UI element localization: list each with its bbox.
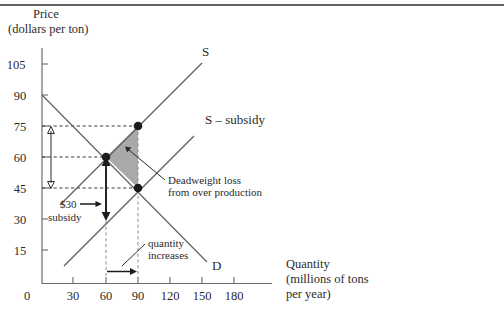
x-axis-title-line2: (millions of tons: [286, 272, 369, 286]
y-axis-title-line1: Price: [33, 7, 59, 21]
deadweight-loss-label-line2: from over production: [168, 186, 263, 198]
x-axis-title-line3: per year): [286, 287, 331, 301]
y-tick-label-105: 105: [7, 58, 26, 72]
origin-label: 0: [24, 289, 30, 303]
x-tick-label-150: 150: [193, 289, 212, 303]
x-tick-label-30: 30: [67, 289, 80, 303]
x-tick-label-180: 180: [225, 289, 244, 303]
y-tick-label-60: 60: [14, 151, 27, 165]
curve-label-S-minus-subsidy: S – subsidy: [205, 112, 265, 127]
subsidy-annotation-line2: subsidy: [48, 211, 82, 223]
y-tick-label-90: 90: [14, 89, 27, 103]
curve-label-D: D: [212, 258, 221, 273]
y-tick-label-30: 30: [14, 213, 27, 227]
deadweight-loss-triangle: [106, 126, 138, 188]
y-axis-title-line2: (dollars per ton): [8, 22, 89, 36]
quantity-increases-label-line1: quantity: [148, 237, 185, 249]
deadweight-loss-label-line1: Deadweight loss: [168, 174, 241, 186]
curve-label-S: S: [202, 44, 209, 59]
x-tick-label-60: 60: [100, 289, 113, 303]
x-tick-label-120: 120: [161, 289, 180, 303]
figure-page: Price (dollars per ton) 105 90 75 60 45 …: [0, 0, 504, 316]
x-axis-title-line1: Quantity: [286, 257, 330, 271]
quantity-increases-pointer-line: [122, 244, 145, 266]
subsidy-annotation-line1: $30: [60, 198, 77, 210]
quantity-increases-label-line2: increases: [148, 249, 188, 261]
x-tick-label-90: 90: [132, 289, 145, 303]
point-price-buyers-pay-45: [134, 184, 143, 193]
y-tick-label-15: 15: [14, 244, 27, 258]
quantity-increases-arrow: [107, 268, 137, 275]
subsidy-pointer-arrowhead: [96, 201, 103, 207]
point-price-sellers-receive-75: [134, 122, 143, 131]
economics-subsidy-diagram: Price (dollars per ton) 105 90 75 60 45 …: [0, 0, 504, 316]
y-tick-label-75: 75: [14, 120, 27, 134]
x-axis-ticks: [73, 277, 234, 284]
subsidy-amount-arrow: [102, 157, 111, 221]
y-tick-label-45: 45: [14, 182, 27, 196]
